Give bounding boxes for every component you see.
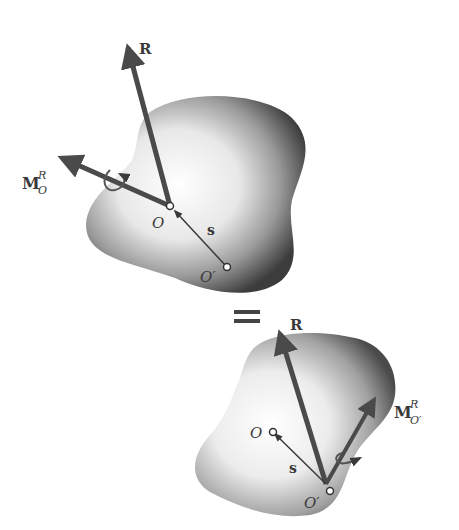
top-point-o <box>167 203 174 210</box>
bottom-point-o-label: O <box>250 424 262 442</box>
bottom-moment-label-sub: O′ <box>410 414 422 427</box>
bottom-point-o-prime <box>327 488 334 495</box>
top-rigid-body <box>86 96 306 293</box>
top-point-o-prime-label: O′ <box>200 268 216 286</box>
top-point-o-label: O <box>152 214 164 232</box>
bottom-system: R M R O′ s O O′ <box>195 316 422 516</box>
bottom-point-o-prime-label: O′ <box>304 494 320 512</box>
bottom-point-o <box>270 429 277 436</box>
bottom-rigid-body <box>195 333 395 516</box>
top-moment-label-sub: O <box>38 184 47 197</box>
bottom-moment-label-sup: R <box>409 398 418 411</box>
top-moment-label-sup: R <box>37 169 46 182</box>
top-point-o-prime <box>224 264 231 271</box>
bottom-force-r-label: R <box>290 316 303 334</box>
bottom-s-label: s <box>289 460 297 476</box>
force-couple-diagram: R M R O s O O′ R M R O′ <box>0 0 459 530</box>
top-s-label: s <box>207 222 215 238</box>
equals-sign <box>234 310 260 323</box>
top-force-r-label: R <box>139 40 152 58</box>
top-system: R M R O s O O′ <box>22 40 306 293</box>
